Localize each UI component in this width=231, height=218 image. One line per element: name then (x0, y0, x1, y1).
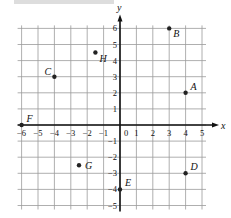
axes: xy (18, 2, 226, 211)
point-e-label: E (124, 177, 131, 188)
point-b-marker (167, 26, 171, 30)
point-g-marker (77, 163, 81, 167)
y-tick-label: 6 (113, 23, 117, 33)
y-tick-label: 2 (113, 88, 117, 98)
point-g-label: G (85, 160, 92, 171)
x-tick-label: −4 (50, 128, 60, 138)
point-b-label: B (173, 28, 179, 39)
y-tick-label: 3 (113, 72, 117, 82)
point-f-label: F (26, 113, 34, 124)
point-a-label: A (190, 81, 198, 92)
x-tick-label: 2 (151, 128, 155, 138)
x-tick-label: 5 (200, 128, 204, 138)
x-tick-label: −1 (99, 128, 108, 138)
y-tick-label: 5 (113, 40, 117, 50)
coordinate-plane: xy −6−5−4−3−2−1012345−5−4−3−2−1123456 AB… (0, 0, 231, 218)
point-d-label: D (190, 161, 199, 172)
y-tick-label: −1 (108, 136, 117, 146)
x-tick-label: 1 (134, 128, 138, 138)
point-e-marker (118, 187, 122, 191)
y-tick-label: 1 (113, 104, 117, 114)
x-tick-label: 0 (124, 128, 128, 138)
y-tick-label: −5 (108, 201, 117, 211)
grid-lines (18, 25, 206, 209)
point-d-marker (183, 171, 187, 175)
point-h-marker (93, 50, 97, 54)
y-tick-label: −2 (108, 152, 117, 162)
x-tick-label: 3 (167, 128, 171, 138)
y-axis-label: y (116, 2, 122, 13)
x-axis-arrow-icon (212, 123, 219, 128)
x-tick-label: −5 (33, 128, 42, 138)
point-f-marker (19, 123, 23, 127)
x-tick-label: −3 (66, 128, 75, 138)
x-tick-label: −2 (83, 128, 92, 138)
x-tick-label: 4 (183, 128, 188, 138)
tick-labels: −6−5−4−3−2−1012345−5−4−3−2−1123456 (17, 23, 204, 210)
y-axis-arrow-icon (118, 14, 123, 21)
point-c-label: C (44, 66, 51, 77)
x-tick-label: −6 (17, 128, 26, 138)
point-a-marker (183, 91, 187, 95)
y-tick-label: −4 (108, 184, 118, 194)
x-axis-label: x (220, 120, 226, 131)
point-c-marker (52, 75, 56, 79)
point-h-label: H (98, 53, 107, 64)
y-tick-label: −3 (108, 168, 117, 178)
